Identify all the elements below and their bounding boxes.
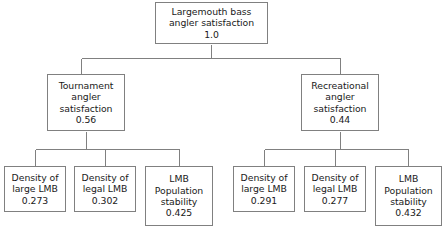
hierarchy-diagram: Largemouth bass angler satisfaction 1.0 … (0, 0, 446, 232)
node-label-line: legal LMB (83, 183, 128, 194)
node-tournament-angler-satisfaction: Tournament angler satisfaction 0.56 (47, 74, 125, 131)
node-value: 0.432 (395, 207, 421, 218)
node-label-line: angler satisfaction (169, 17, 254, 28)
node-label-line: Density of (241, 172, 288, 183)
node-tournament-density-of-legal-lmb: Density of legal LMB 0.302 (74, 166, 136, 212)
node-value: 0.56 (76, 114, 97, 125)
node-value: 0.291 (251, 195, 277, 206)
node-label-line: Tournament (59, 80, 114, 91)
node-recreational-density-of-large-lmb: Density of large LMB 0.291 (233, 166, 295, 212)
node-label-line: stability (390, 196, 427, 207)
node-label-line: large LMB (241, 183, 287, 194)
node-value: 0.44 (330, 114, 351, 125)
node-value: 1.0 (204, 29, 219, 40)
node-recreational-angler-satisfaction: Recreational angler satisfaction 0.44 (301, 74, 379, 131)
node-label-line: angler (71, 91, 100, 102)
node-label-line: satisfaction (314, 103, 367, 114)
node-label-line: LMB (399, 173, 418, 184)
node-recreational-density-of-legal-lmb: Density of legal LMB 0.277 (304, 166, 366, 212)
node-label-line: Density of (82, 172, 129, 183)
node-largemouth-bass-angler-satisfaction: Largemouth bass angler satisfaction 1.0 (155, 2, 268, 44)
node-label-line: stability (161, 196, 198, 207)
node-label-line: Density of (312, 172, 359, 183)
node-label-line: large LMB (12, 183, 58, 194)
node-value: 0.277 (322, 195, 348, 206)
node-tournament-lmb-population-stability: LMB Population stability 0.425 (145, 166, 213, 226)
node-label-line: Largemouth bass (172, 6, 252, 17)
node-label-line: Recreational (311, 80, 368, 91)
node-label-line: satisfaction (60, 103, 113, 114)
node-label-line: Density of (12, 172, 59, 183)
node-label-line: legal LMB (313, 183, 358, 194)
node-tournament-density-of-large-lmb: Density of large LMB 0.273 (4, 166, 66, 212)
node-label-line: LMB (169, 173, 188, 184)
node-value: 0.273 (22, 195, 48, 206)
node-label-line: Population (384, 185, 432, 196)
node-label-line: Population (155, 185, 203, 196)
node-label-line: angler (325, 91, 354, 102)
node-value: 0.302 (92, 195, 118, 206)
node-recreational-lmb-population-stability: LMB Population stability 0.432 (375, 166, 442, 226)
node-value: 0.425 (166, 207, 192, 218)
